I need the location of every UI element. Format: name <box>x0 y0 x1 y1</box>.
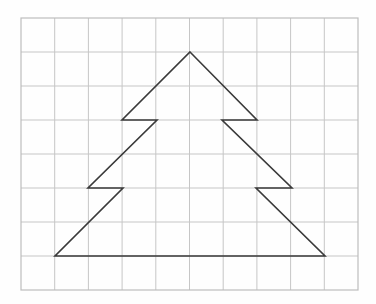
grid-tree-figure <box>0 0 376 304</box>
figure-canvas <box>0 0 376 304</box>
figure-background <box>0 0 376 304</box>
